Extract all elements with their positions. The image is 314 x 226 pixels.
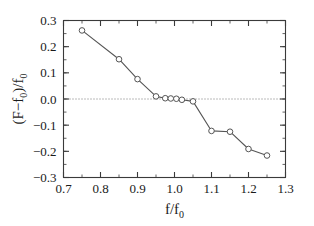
x-tick-label: 1.2	[240, 181, 256, 196]
data-point-marker	[209, 128, 215, 134]
data-point-marker	[153, 94, 159, 100]
data-point-marker	[246, 146, 252, 152]
y-tick-label: 0.0	[40, 92, 56, 107]
y-tick-label: 0.3	[40, 13, 56, 28]
x-tick-label: 0.9	[129, 181, 145, 196]
data-point-marker	[227, 129, 233, 135]
y-tick-label: 0.1	[40, 65, 56, 80]
y-tick-labels: −0.3−0.2−0.10.00.10.20.3	[33, 13, 57, 185]
data-point-marker	[179, 97, 185, 103]
figure-container: 0.70.80.91.01.11.21.3−0.3−0.2−0.10.00.10…	[0, 0, 314, 226]
x-tick-label: 1.0	[166, 181, 182, 196]
data-point-marker	[190, 99, 196, 105]
chart-plot: 0.70.80.91.01.11.21.3−0.3−0.2−0.10.00.10…	[0, 0, 314, 226]
x-tick-label: 0.8	[92, 181, 108, 196]
data-point-marker	[79, 28, 85, 34]
series-line	[82, 30, 267, 155]
data-point-marker	[162, 95, 168, 101]
data-point-marker	[116, 56, 122, 62]
y-tick-label: −0.3	[33, 170, 57, 185]
data-point-marker	[135, 76, 141, 82]
y-tick-label: −0.1	[33, 118, 57, 133]
x-tick-label: 1.3	[277, 181, 293, 196]
x-tick-label: 0.7	[55, 181, 72, 196]
series-markers	[79, 28, 270, 159]
data-point-marker	[264, 153, 270, 159]
x-tick-label: 1.1	[203, 181, 219, 196]
y-tick-label: 0.2	[40, 39, 56, 54]
y-axis-title: (F−f0)/f0	[10, 74, 29, 125]
data-point-marker	[174, 96, 180, 102]
y-tick-label: −0.2	[33, 144, 57, 159]
data-point-marker	[168, 96, 174, 102]
x-tick-labels: 0.70.80.91.01.11.21.3	[55, 181, 293, 196]
x-axis-title: f/f0	[165, 201, 184, 220]
